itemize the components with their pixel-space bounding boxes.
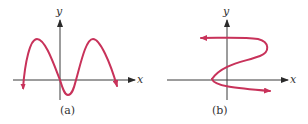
figure-caption: (b) bbox=[212, 105, 228, 116]
curve-b-lower bbox=[212, 79, 270, 91]
y-axis-label: y bbox=[56, 6, 62, 17]
figure-b: y x (b) bbox=[154, 0, 308, 124]
figure-a: y x (a) bbox=[0, 0, 154, 124]
x-axis-label: x bbox=[290, 74, 296, 85]
x-axis-label: x bbox=[137, 74, 143, 85]
curve-b bbox=[201, 38, 267, 79]
curve-a bbox=[23, 39, 117, 95]
graph-b-plot bbox=[154, 0, 308, 124]
graph-a-plot bbox=[0, 0, 154, 124]
y-axis-label: y bbox=[223, 6, 229, 17]
curve-a-left-arrow-icon bbox=[21, 84, 26, 90]
figure-caption: (a) bbox=[60, 105, 75, 116]
